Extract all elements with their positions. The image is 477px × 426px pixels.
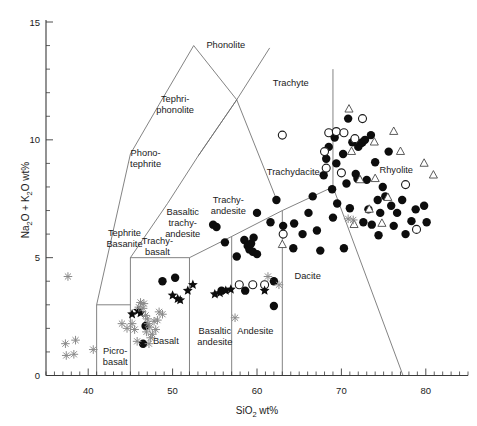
data-point-filled-circle [376,209,384,217]
data-point-filled-circle [411,205,419,213]
data-point-filled-circle [249,233,257,241]
field-label: Basaltictrachy-andesite [165,207,200,239]
data-point-open-circle [279,230,287,238]
data-point-filled-circle [233,252,241,260]
field-boundary [130,104,159,153]
field-boundary [198,100,237,157]
data-point-asterisk [62,351,71,360]
x-tick-label: 50 [167,385,178,396]
data-point-filled-circle [407,217,415,225]
field-label: Tephri-phonolite [156,94,194,115]
data-point-open-circle [340,129,348,137]
data-point-asterisk [275,280,284,289]
data-point-filled-circle [290,219,298,227]
data-point-open-triangle [345,105,353,112]
data-point-filled-circle [339,150,347,158]
y-tick-label: 10 [29,134,40,145]
data-point-open-circle [402,181,410,189]
x-axis-tick-labels: 4050607080 [83,385,431,396]
data-point-asterisk [89,345,98,354]
field-label: Andesite [237,326,273,336]
field-label: Trachy-basalt [142,236,173,257]
data-point-filled-circle [422,218,430,226]
data-point-filled-circle [272,196,280,204]
rock-field-labels: Picro-basaltBasaltBasalticandesiteAndesi… [103,40,413,367]
data-point-filled-circle [333,199,341,207]
x-tick-label: 40 [83,385,94,396]
field-label: TephriteBasanite [106,228,142,249]
data-point-filled-circle [387,202,395,210]
data-point-asterisk [133,337,142,346]
data-point-filled-circle [379,183,387,191]
tas-plot-canvas: 4050607080 051015 Picro-basaltBasaltBasa… [0,0,477,426]
data-point-filled-circle [374,231,382,239]
data-point-filled-circle [270,277,278,285]
data-point-asterisk [231,313,240,322]
data-point-open-circle [337,169,345,177]
data-point-filled-circle [328,185,336,193]
data-point-asterisk [61,339,70,348]
data-point-filled-circle [329,213,337,221]
data-point-filled-circle [420,202,428,210]
data-point-open-circle [322,164,330,172]
data-point-filled-circle [171,273,179,281]
data-point-open-circle [278,131,286,139]
data-point-filled-circle [253,250,261,258]
data-point-filled-circle [371,158,379,166]
data-point-asterisk [349,216,358,225]
field-label: Phonolite [206,40,245,50]
x-tick-label: 60 [252,385,263,396]
data-point-asterisk [158,310,167,319]
data-point-asterisk [71,336,80,345]
x-tick-label: 80 [421,385,432,396]
data-point-filled-circle [393,209,401,217]
data-point-filled-circle [390,222,398,230]
data-point-filled-circle [346,204,354,212]
data-point-filled-circle [384,147,392,155]
field-label: Trachydacite [267,167,320,177]
field-boundary [237,48,270,100]
data-point-filled-circle [298,230,306,238]
data-point-open-circle [332,128,340,136]
y-tick-label: 0 [35,370,40,381]
data-point-open-circle [351,135,359,143]
data-point-filled-circle [398,196,406,204]
data-point-open-circle [413,225,421,233]
data-point-asterisk [264,272,273,281]
svg-text:SiO2 wt%: SiO2 wt% [236,405,279,419]
field-label: Basalt [153,336,179,346]
data-point-filled-circle [158,277,166,285]
field-label: Basalticandesite [197,326,232,347]
data-point-filled-circle [340,244,348,252]
field-label: Trachyte [273,78,309,88]
data-point-asterisk [151,325,160,334]
field-label: Rhyolite [379,165,413,175]
field-boundary [282,187,333,211]
y-tick-label: 15 [29,17,40,28]
field-boundary [333,187,403,376]
data-point-filled-circle [253,209,261,217]
data-point-filled-circle [221,238,229,246]
x-tick-label: 70 [336,385,347,396]
data-point-asterisk [145,339,154,348]
y-tick-label: 5 [35,252,40,263]
y-axis-title: Na2O + K2O wt% [20,162,34,239]
data-point-filled-circle [332,159,340,167]
data-point-open-triangle [390,127,398,134]
data-point-filled-circle [344,114,352,122]
svg-text:Na2O + K2O wt%: Na2O + K2O wt% [20,162,34,239]
data-point-filled-circle [359,218,367,226]
field-boundary [237,100,278,204]
data-point-asterisk [141,311,150,320]
data-point-filled-circle [342,179,350,187]
field-label: Picro-basalt [103,346,128,367]
data-point-open-triangle [396,147,404,154]
tas-diagram: 4050607080 051015 Picro-basaltBasaltBasa… [0,0,477,426]
field-label: Trachy-andesite [211,195,246,216]
data-point-filled-circle [266,218,274,226]
data-point-open-triangle [429,171,437,178]
data-point-asterisk [146,333,155,342]
data-point-open-triangle [378,219,386,226]
data-point-filled-circle [279,222,287,230]
data-point-asterisk [130,325,139,334]
